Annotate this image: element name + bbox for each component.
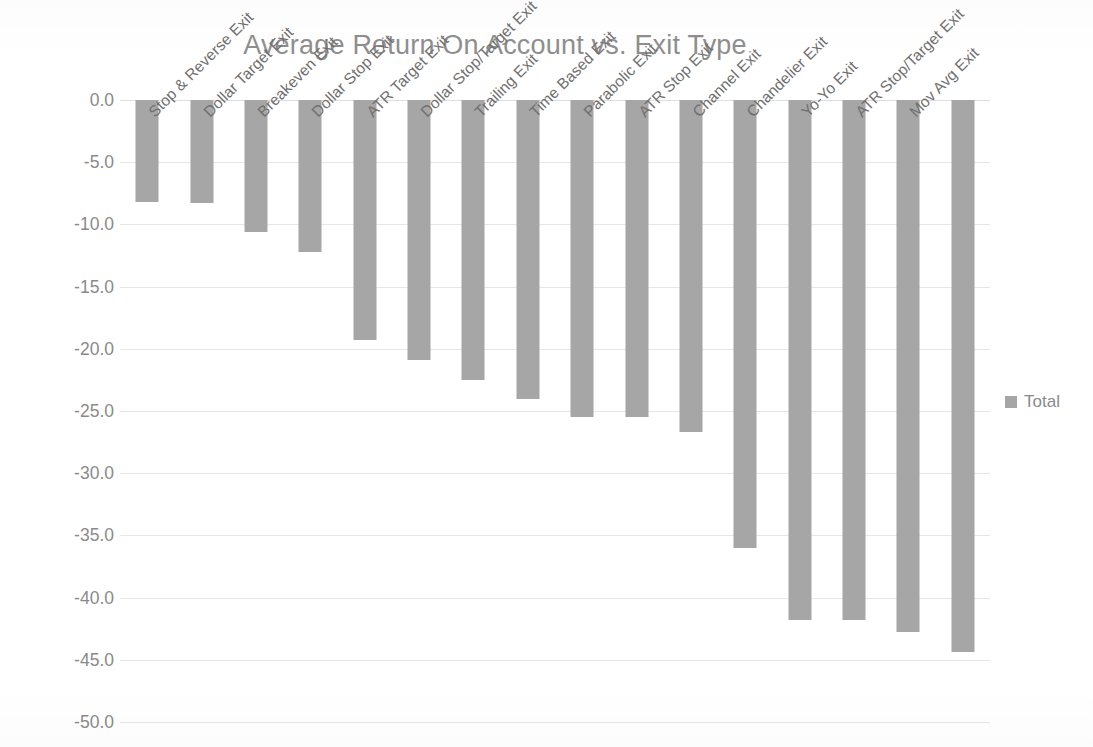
y-axis-tick-label: -40.0 — [38, 587, 114, 608]
bar[interactable] — [571, 100, 594, 417]
bar-slot — [555, 100, 609, 722]
bar-chart: Average Return On Account vs. Exit Type … — [0, 0, 1093, 747]
y-axis-tick-label: -15.0 — [38, 276, 114, 297]
bar[interactable] — [625, 100, 648, 417]
gridline — [120, 722, 990, 723]
bar[interactable] — [299, 100, 322, 252]
bar[interactable] — [408, 100, 431, 360]
y-axis-tick-label: -30.0 — [38, 463, 114, 484]
y-axis-tick-label: -5.0 — [38, 152, 114, 173]
plot-area — [120, 100, 990, 722]
bar-slot — [609, 100, 663, 722]
bar[interactable] — [843, 100, 866, 620]
bar-slot — [174, 100, 228, 722]
bar[interactable] — [462, 100, 485, 380]
y-axis-tick-label: -45.0 — [38, 649, 114, 670]
chart-legend: Total — [1005, 392, 1060, 412]
bar-slot — [338, 100, 392, 722]
bar-slot — [229, 100, 283, 722]
legend-swatch-icon — [1005, 396, 1017, 408]
bar[interactable] — [951, 100, 974, 652]
bar-slot — [392, 100, 446, 722]
legend-label: Total — [1024, 392, 1060, 412]
y-axis-tick-label: -50.0 — [38, 712, 114, 733]
y-axis-tick-label: -25.0 — [38, 401, 114, 422]
bar-slot — [881, 100, 935, 722]
bar[interactable] — [897, 100, 920, 632]
y-axis-tick-labels: 0.0-5.0-10.0-15.0-20.0-25.0-30.0-35.0-40… — [38, 100, 114, 722]
bar-slot — [827, 100, 881, 722]
y-axis-tick-label: -10.0 — [38, 214, 114, 235]
bar-slot — [283, 100, 337, 722]
bar[interactable] — [244, 100, 267, 232]
bar-slot — [936, 100, 990, 722]
bar[interactable] — [679, 100, 702, 432]
bar-slot — [718, 100, 772, 722]
bar-slot — [773, 100, 827, 722]
bar-slot — [664, 100, 718, 722]
y-axis-tick-label: -20.0 — [38, 338, 114, 359]
bar-slot — [120, 100, 174, 722]
bar[interactable] — [516, 100, 539, 399]
bar-slot — [501, 100, 555, 722]
bar[interactable] — [353, 100, 376, 340]
y-axis-tick-label: 0.0 — [38, 90, 114, 111]
bar-slot — [446, 100, 500, 722]
bar[interactable] — [734, 100, 757, 548]
y-axis-tick-label: -35.0 — [38, 525, 114, 546]
bar[interactable] — [788, 100, 811, 620]
